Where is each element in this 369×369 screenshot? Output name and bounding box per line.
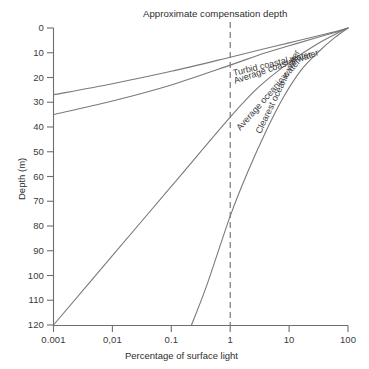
x-tick-label: 0.1 (146, 334, 196, 345)
x-tick-label: 0.001 (29, 334, 79, 345)
x-tick-label: 10 (264, 334, 314, 345)
x-tick-label: 100 (323, 334, 369, 345)
compensation-depth-annotation: Approximate compensation depth (143, 8, 287, 19)
y-axis-tick-marks (47, 28, 54, 325)
y-tick-label: 110 (8, 294, 44, 305)
y-tick-label: 30 (8, 96, 44, 107)
y-tick-label: 10 (8, 47, 44, 58)
x-tick-label: 1 (205, 334, 255, 345)
x-tick-label: 0,01 (87, 334, 137, 345)
y-tick-label: 0 (8, 22, 44, 33)
y-tick-label: 120 (8, 319, 44, 330)
chart-figure: 0102030405060708090100110120 0.0010,010.… (0, 0, 369, 369)
curve-average-coastal-water (54, 28, 349, 115)
y-axis-title: Depth (m) (16, 158, 27, 200)
y-tick-label: 80 (8, 220, 44, 231)
y-tick-label: 90 (8, 245, 44, 256)
x-axis-title: Percentage of surface light (125, 350, 238, 361)
x-axis-tick-marks (54, 326, 349, 333)
axes-group (53, 28, 348, 326)
y-tick-label: 20 (8, 72, 44, 83)
curve-average-oceanic-water (54, 28, 349, 325)
data-curves-group (54, 28, 349, 325)
y-tick-label: 100 (8, 270, 44, 281)
y-tick-label: 50 (8, 146, 44, 157)
y-tick-label: 40 (8, 121, 44, 132)
